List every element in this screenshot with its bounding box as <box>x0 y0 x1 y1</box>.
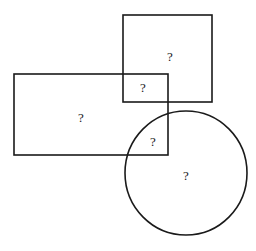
label-circle-only: ? <box>183 168 189 183</box>
label-rectangle-only: ? <box>78 110 84 125</box>
label-square-rectangle-overlap: ? <box>140 80 146 95</box>
label-rectangle-circle-overlap: ? <box>150 134 156 149</box>
overlap-diagram: ? ? ? ? ? <box>0 0 256 251</box>
label-square-only: ? <box>167 49 173 64</box>
